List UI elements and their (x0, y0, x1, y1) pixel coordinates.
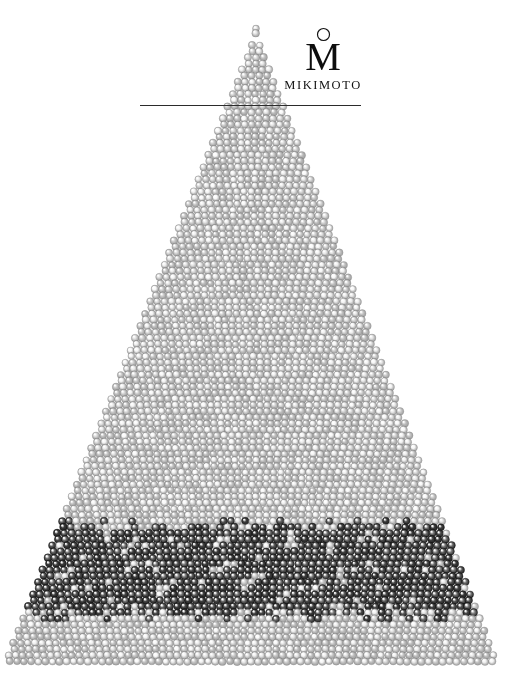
pearl-pyramid-canvas (0, 0, 515, 687)
pearl-pyramid (0, 0, 515, 687)
logo-wordmark: MIKIMOTO (283, 78, 363, 93)
logo-monogram: M (283, 41, 363, 74)
advertisement-canvas: M MIKIMOTO (0, 0, 515, 687)
header-rule (140, 105, 361, 106)
brand-logo: M MIKIMOTO (283, 27, 363, 93)
